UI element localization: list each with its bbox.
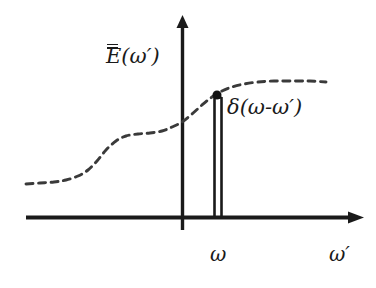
x-axis xyxy=(26,212,364,224)
delta-function-label: δ(ω-ω′) xyxy=(227,97,302,118)
x-axis-arrowhead-icon xyxy=(348,212,364,224)
y-axis-arrowhead-icon xyxy=(177,15,189,28)
figure-container: E(ω′) δ(ω-ω′) ω ω′ xyxy=(0,0,376,288)
delta-impulse-peak-dot xyxy=(213,91,222,100)
x-axis-label: ω′ xyxy=(329,244,350,264)
y-axis-label: E(ω′) xyxy=(106,46,160,67)
delta-impulse xyxy=(213,91,222,218)
omega-tick-label: ω xyxy=(210,244,226,264)
y-axis-label-base: E xyxy=(106,46,121,67)
y-axis-label-argument: (ω′) xyxy=(121,44,159,68)
overbar-upper-icon xyxy=(107,44,118,45)
e-bar-glyph: E xyxy=(106,46,121,67)
plot-canvas xyxy=(0,0,376,288)
overbar-lower-icon xyxy=(107,47,118,48)
